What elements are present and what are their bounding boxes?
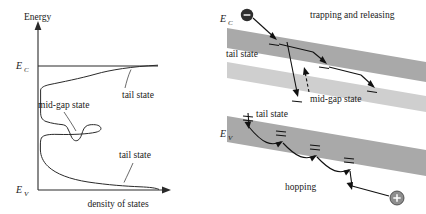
y-axis-label: Energy	[24, 12, 52, 22]
ec-level-label: E C	[219, 13, 233, 27]
conduction-tail-state-annotation: tail state	[122, 70, 154, 101]
ev-label-sub: V	[228, 134, 233, 142]
density-of-states-panel: Energy density of states E C E V tail st…	[0, 0, 213, 214]
dos-chart-svg: Energy density of states E C E V tail st…	[0, 0, 213, 214]
mid-gap-state-label: mid-gap state	[310, 94, 361, 104]
valence-tail-state-label: tail state	[256, 109, 288, 119]
trapping-and-releasing-label: trapping and releasing	[310, 10, 395, 20]
ev-label-sub: V	[24, 190, 29, 198]
conduction-tail-state-label: tail state	[226, 49, 258, 59]
valence-tail-band	[227, 116, 426, 176]
conduction-tail-state-label: tail state	[122, 90, 154, 100]
band-transport-panel: E C E V	[213, 0, 426, 214]
hopping-label: hopping	[285, 182, 316, 192]
dos-curve	[40, 65, 159, 189]
valence-tail-state-annotation: tail state	[119, 150, 151, 183]
ec-label-sub: C	[24, 66, 29, 74]
hole-carrier	[390, 191, 404, 205]
valence-tail-state-label: tail state	[119, 150, 151, 160]
ev-label-base: E	[15, 184, 22, 195]
ec-label-base: E	[15, 60, 22, 71]
ev-label-base: E	[219, 128, 226, 139]
x-axis-label: density of states	[87, 199, 149, 209]
mid-gap-state-label: mid-gap state	[38, 100, 89, 110]
electron-carrier	[241, 9, 253, 21]
valence-band-edge-level: E V	[15, 184, 29, 198]
ec-label-sub: C	[228, 19, 233, 27]
band-diagram-svg: E C E V	[213, 0, 426, 214]
ec-label-base: E	[219, 13, 226, 24]
mid-gap-state-annotation: mid-gap state	[38, 100, 89, 131]
